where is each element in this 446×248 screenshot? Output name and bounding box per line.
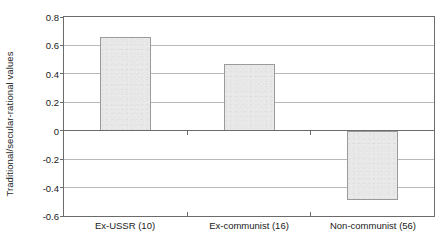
y-tick-label-0.2: 0.2 (46, 97, 59, 108)
y-tick-label-0.8: 0.8 (46, 12, 59, 23)
x-tick-label-0: Ex-USSR (10) (63, 219, 187, 239)
plot-area: 0.80.60.40.20-0.2-0.4-0.6 (63, 16, 435, 217)
bar-chart-figure: Traditional/secular-rational values 0.80… (0, 0, 446, 248)
y-tick-label-0: 0 (54, 125, 59, 136)
y-tick-mark-0.2 (60, 102, 64, 103)
x-axis-tick-labels: Ex-USSR (10) Ex-communist (16) Non-commu… (63, 219, 435, 239)
category-separator-bottom-1 (187, 212, 188, 216)
bar-2 (347, 131, 398, 201)
x-tick-label-1: Ex-communist (16) (187, 219, 311, 239)
y-tick-mark--0.2 (60, 159, 64, 160)
y-tick-mark--0.4 (60, 187, 64, 188)
y-tick-label-0.6: 0.6 (46, 40, 59, 51)
y-tick-mark-0.8 (60, 17, 64, 18)
y-tick-mark--0.6 (60, 216, 64, 217)
bar-0 (100, 37, 151, 131)
x-tick-label-2: Non-communist (56) (311, 219, 435, 239)
y-tick-label-0.4: 0.4 (46, 68, 59, 79)
y-tick-label--0.6: -0.6 (43, 211, 59, 222)
zero-line (64, 130, 434, 131)
category-separator-bottom-2 (310, 212, 311, 216)
y-tick-label--0.2: -0.2 (43, 154, 59, 165)
y-tick-mark-0.4 (60, 73, 64, 74)
y-tick-mark-0.6 (60, 45, 64, 46)
y-tick-label--0.4: -0.4 (43, 182, 59, 193)
bar-1 (224, 64, 275, 131)
y-axis-title: Traditional/secular-rational values (0, 0, 18, 248)
category-separator-top-1 (187, 131, 188, 135)
category-separator-top-2 (310, 131, 311, 135)
